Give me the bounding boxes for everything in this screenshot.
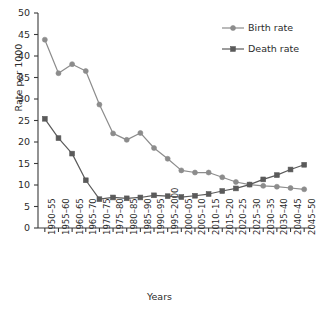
data-point-square (247, 182, 252, 187)
data-point-circle (70, 62, 75, 67)
data-point-circle (302, 187, 307, 192)
data-point-circle (42, 37, 47, 42)
data-point-circle (220, 175, 225, 180)
data-point-circle (261, 183, 266, 188)
legend-marker-square (231, 47, 236, 52)
data-point-square (56, 136, 61, 141)
data-point-circle (124, 137, 129, 142)
data-point-circle (274, 184, 279, 189)
data-point-square (288, 167, 293, 172)
data-point-circle (152, 146, 157, 151)
data-point-square (165, 194, 170, 199)
data-point-square (179, 195, 184, 200)
chart-container: Rate per 1000 Years 05101520253035404550… (0, 0, 319, 311)
data-point-square (138, 195, 143, 200)
data-point-circle (97, 102, 102, 107)
data-point-square (261, 177, 266, 182)
data-point-square (111, 195, 116, 200)
data-point-square (234, 186, 239, 191)
data-point-circle (165, 156, 170, 161)
data-point-circle (288, 186, 293, 191)
legend-marker-circle (231, 26, 236, 31)
data-point-square (220, 189, 225, 194)
data-point-square (152, 193, 157, 198)
data-point-circle (192, 170, 197, 175)
data-point-square (42, 116, 47, 121)
data-point-square (70, 151, 75, 156)
data-point-circle (233, 179, 238, 184)
data-point-square (193, 193, 198, 198)
data-point-circle (138, 130, 143, 135)
data-point-circle (111, 131, 116, 136)
data-point-circle (206, 170, 211, 175)
data-point-square (83, 178, 88, 183)
series-line-birth-rate (45, 40, 304, 190)
plot-area (0, 0, 319, 311)
data-point-circle (56, 71, 61, 76)
data-point-square (274, 173, 279, 178)
data-point-square (302, 162, 307, 167)
data-point-circle (179, 168, 184, 173)
data-point-square (97, 197, 102, 202)
data-point-square (206, 192, 211, 197)
data-point-circle (83, 69, 88, 74)
data-point-square (124, 196, 129, 201)
